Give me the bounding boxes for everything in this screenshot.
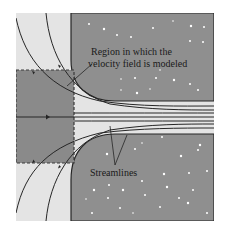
- region-label-line2: velocity field is modeled: [88, 58, 187, 69]
- streamlines-label: Streamlines: [90, 167, 137, 178]
- region-label-line1: Region in which the: [91, 46, 172, 57]
- upper-wall: [71, 13, 214, 101]
- flow-diagram: Region in which the velocity field is mo…: [0, 0, 229, 232]
